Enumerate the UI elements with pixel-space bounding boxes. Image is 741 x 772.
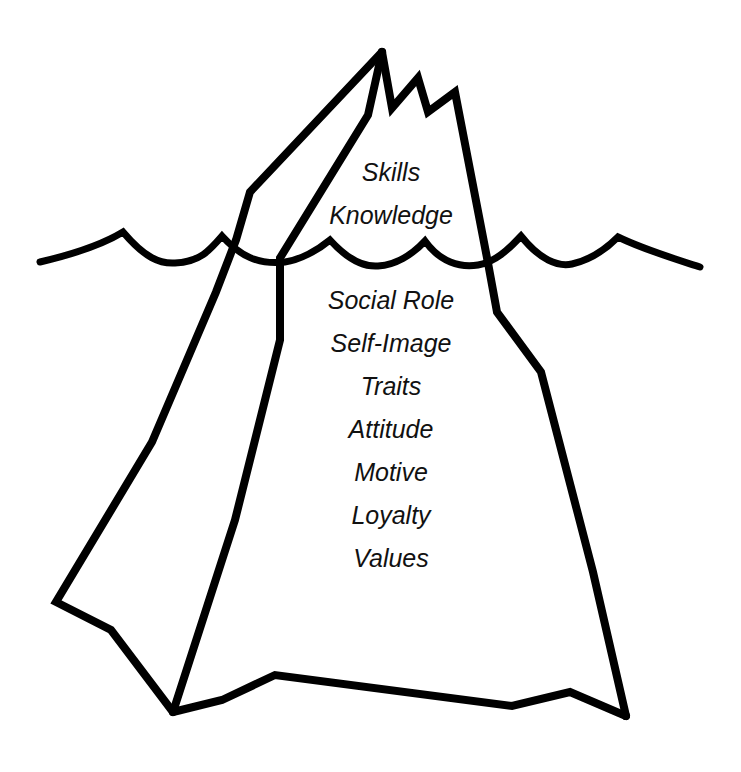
label-loyalty: Loyalty — [241, 501, 541, 529]
label-self-image: Self-Image — [241, 329, 541, 357]
label-traits: Traits — [241, 372, 541, 400]
iceberg-bottom-edge — [173, 675, 626, 716]
label-motive: Motive — [241, 458, 541, 486]
label-attitude: Attitude — [241, 415, 541, 443]
label-values: Values — [241, 544, 541, 572]
iceberg-diagram: Skills Knowledge Social Role Self-Image … — [0, 0, 741, 772]
label-knowledge: Knowledge — [241, 201, 541, 229]
water-line — [40, 232, 700, 267]
label-skills: Skills — [241, 158, 541, 186]
label-social-role: Social Role — [241, 286, 541, 314]
